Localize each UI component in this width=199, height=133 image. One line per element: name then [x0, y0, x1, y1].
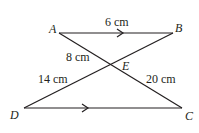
point-label-a: A [48, 22, 57, 36]
point-label-e: E [121, 59, 130, 73]
length-label-ab: 6 cm [105, 15, 129, 29]
point-label-d: D [9, 108, 19, 122]
similar-triangles-diagram: A B D C E 6 cm 8 cm 14 cm 20 cm [0, 0, 199, 133]
segment-ac [59, 33, 182, 108]
length-label-ae: 8 cm [66, 50, 90, 64]
point-label-b: B [175, 21, 183, 35]
length-label-de: 14 cm [38, 72, 68, 86]
segment-bd [24, 33, 173, 108]
length-label-ec: 20 cm [146, 72, 176, 86]
point-label-c: C [185, 109, 194, 123]
